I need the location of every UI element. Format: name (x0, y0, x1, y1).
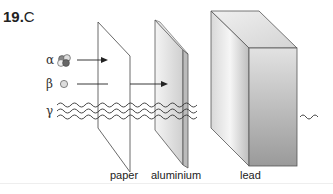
alpha-symbol: α (46, 53, 54, 67)
gamma-symbol: γ (46, 104, 53, 118)
alpha-particle-icon (58, 55, 71, 67)
lead-block (211, 11, 297, 166)
beta-symbol: β (46, 77, 53, 91)
label-lead: lead (240, 169, 261, 181)
label-aluminium: aluminium (151, 169, 201, 181)
beta-particle-icon (60, 80, 67, 87)
gamma-wave-transmitted (300, 115, 318, 119)
aluminium-sheet (155, 20, 188, 168)
divider (0, 183, 333, 184)
label-paper: paper (110, 169, 138, 181)
paper-sheet (98, 22, 130, 172)
radiation-penetration-diagram (0, 0, 333, 194)
